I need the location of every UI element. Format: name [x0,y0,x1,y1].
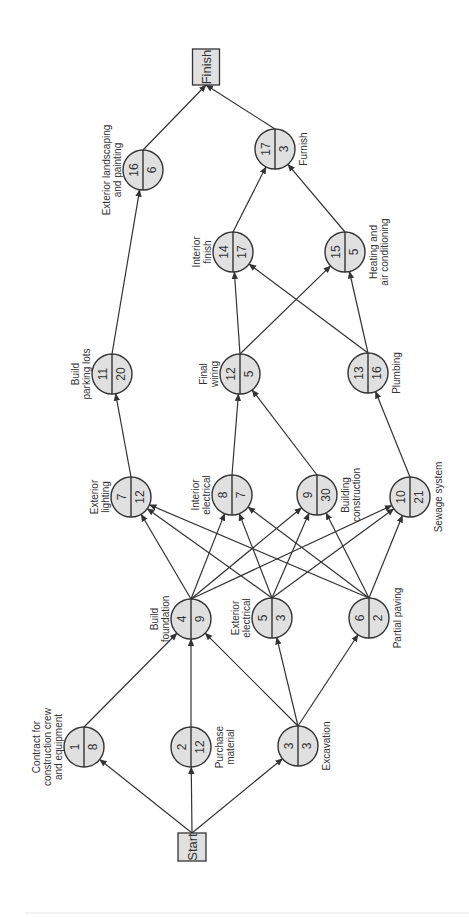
activity-label: Interior [191,236,202,268]
activity-label: construction [351,468,362,522]
activity-label: and painting [112,143,123,198]
activity-number: 10 [394,490,408,504]
activity-node-1: 18Contract forconstruction crewand equip… [31,707,105,786]
edge-12-to-14 [234,272,240,354]
activity-duration: 6 [145,166,159,173]
activity-duration: 20 [114,367,128,381]
edge-6-to-10 [369,516,402,598]
activity-duration: 5 [347,248,361,255]
start-label: Start [185,833,200,861]
activity-node-3: 33Excavation [278,722,332,771]
activity-label: finish [202,240,213,263]
edge-3-to-4 [205,633,298,726]
edge-13-to-14 [249,264,368,353]
activity-label: Interior [190,479,201,511]
activity-label: lighting [100,481,111,513]
activity-label: electrical [201,475,212,514]
activity-duration: 9 [193,615,207,622]
activity-node-13: 1316Plumbing [348,352,402,394]
activity-node-8: 87Interiorelectrical [190,475,253,515]
edge-10-to-13 [375,392,410,477]
activity-number: 2 [175,743,189,750]
activity-node-12: 125Finalwiring [198,354,261,394]
edge-16-to-finish [143,85,206,150]
activity-number: 13 [352,366,366,380]
edge-3-to-5 [277,637,298,726]
edge-5-to-9 [272,513,309,598]
activity-node-15: 155Heating andair conditioning [325,218,390,285]
activity-node-10: 1021Sewage system [390,462,444,533]
activity-label: Sewage system [433,462,444,533]
edges-layer [84,85,410,833]
activity-label: Exterior [230,600,241,635]
activity-node-2: 212Purchasematerial [171,725,236,768]
activity-label: Partial paving [392,588,403,649]
activity-label: electrical [241,598,252,637]
finish-label: Finish [199,50,214,85]
activity-node-17: 173Furnish [255,129,309,169]
activity-duration: 5 [242,370,256,377]
activity-duration: 2 [371,614,385,621]
edge-start-to-2 [191,767,192,833]
activity-node-9: 930Buildingconstruction [297,468,362,522]
activity-number: 17 [259,142,273,156]
activity-label: parking lots [81,348,92,399]
project-network-diagram: 18Contract forconstruction crewand equip… [0,0,469,917]
activity-number: 7 [115,493,129,500]
activity-node-11: 1120Buildparking lots [70,348,133,399]
activity-number: 1 [68,743,82,750]
edge-5-to-7 [147,509,272,598]
activity-label: Build [70,363,81,385]
activity-number: 15 [329,245,343,259]
activity-number: 9 [301,491,315,498]
activity-label: and equipment [53,714,64,780]
start-terminal: Start [178,833,206,861]
activity-node-14: 1417Interiorfinish [191,232,254,272]
activity-duration: 7 [234,491,248,498]
edge-9-to-12 [252,390,317,475]
edge-14-to-17 [233,167,266,232]
edge-start-to-3 [192,759,283,833]
activity-label: material [225,729,236,765]
activity-number: 16 [127,163,141,177]
edge-3-to-6 [298,635,358,726]
activity-duration: 12 [133,490,147,504]
activity-duration: 3 [274,614,288,621]
activity-number: 4 [175,615,189,622]
activity-number: 8 [216,491,230,498]
activity-label: Heating and [368,225,379,279]
activity-duration: 8 [86,743,100,750]
edge-1-to-4 [84,633,177,727]
activity-duration: 12 [193,740,207,754]
activity-node-4: 49Buildfoundation [149,596,212,643]
activity-duration: 30 [319,488,333,502]
activity-label: Contract for [31,720,42,773]
activity-label: Plumbing [391,352,402,394]
activity-duration: 21 [412,490,426,504]
edge-15-to-17 [288,164,345,232]
activity-label: Furnish [298,132,309,165]
activity-node-5: 53Exteriorelectrical [230,598,293,638]
activity-label: foundation [160,596,171,643]
activity-number: 14 [217,245,231,259]
activity-number: 6 [353,614,367,621]
activity-duration: 16 [370,366,384,380]
activity-label: Exterior [89,479,100,514]
activity-duration: 3 [277,145,291,152]
activity-label: Exterior landscaping [101,125,112,216]
activity-label: wiring [209,361,220,388]
finish-terminal: Finish [193,49,220,85]
activity-number: 5 [256,614,270,621]
activity-node-6: 62Partial paving [349,588,403,649]
activity-label: Build [149,608,160,630]
activity-label: construction crew [42,707,53,786]
activity-label: Building [340,477,351,513]
activity-label: Excavation [321,722,332,771]
edge-4-to-9 [191,508,302,599]
edge-17-to-finish [206,85,275,129]
activity-duration: 3 [300,742,314,749]
edge-4-to-7 [141,514,191,599]
activity-label: Purchase [214,725,225,768]
activity-number: 3 [282,742,296,749]
activity-number: 11 [96,367,110,380]
